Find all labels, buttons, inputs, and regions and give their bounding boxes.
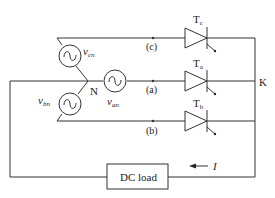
node-a-label: (a) [146,84,157,96]
vbn-label: vbn [38,94,50,108]
ac-source-c-icon [59,45,81,67]
thyristor-tc-icon [185,27,216,52]
thyristor-tb-icon [185,110,216,135]
current-arrow-icon [189,164,208,169]
node-b-label: (b) [146,125,158,137]
tc-label: Tc [193,13,203,27]
ac-source-a-icon [104,70,126,92]
node-c-label: (c) [146,41,157,53]
van-label: van [107,95,119,109]
circuit-diagram: vcn van vbn N (c) (a) (b) Tc Ta Tb K DC … [0,0,275,198]
ta-label: Ta [193,57,204,71]
node-a-dot [152,80,154,82]
dc-load-label: DC load [120,171,157,183]
node-c-dot [152,37,154,39]
neutral-label: N [90,85,98,97]
vcn-label: vcn [83,45,95,59]
node-b-dot [152,120,154,122]
cathode-label: K [259,76,267,88]
current-label: I [212,160,218,172]
thyristor-ta-icon [185,70,216,95]
ac-source-b-icon [59,93,81,115]
tb-label: Tb [193,97,204,111]
